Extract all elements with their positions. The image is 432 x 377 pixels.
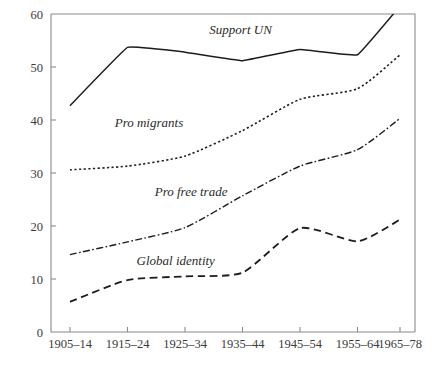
series-label-pro-free-trade: Pro free trade [154, 184, 228, 199]
y-tick-label: 0 [37, 326, 43, 340]
y-tick-label: 30 [31, 167, 44, 181]
series-label-global-identity: Global identity [137, 253, 216, 268]
y-tick-label: 50 [31, 61, 44, 75]
y-tick-label: 60 [31, 8, 44, 22]
x-tick-label: 1925–34 [163, 337, 208, 351]
x-tick-label: 1935–44 [221, 337, 266, 351]
x-tick-label: 1915–24 [106, 337, 151, 351]
x-tick-label: 1965–78 [378, 337, 422, 351]
x-tick-label: 1945–54 [278, 337, 323, 351]
x-tick-label: 1905–14 [48, 337, 93, 351]
y-tick-label: 40 [31, 114, 44, 128]
x-tick-label: 1955–64 [336, 337, 381, 351]
line-chart: 0102030405060 1905–141915–241925–341935–… [0, 0, 432, 377]
series-label-support-un: Support UN [209, 22, 273, 37]
y-tick-label: 20 [31, 220, 44, 234]
y-tick-label: 10 [31, 273, 44, 287]
chart-canvas: 0102030405060 1905–141915–241925–341935–… [0, 0, 432, 377]
series-label-pro-migrants: Pro migrants [114, 115, 184, 130]
